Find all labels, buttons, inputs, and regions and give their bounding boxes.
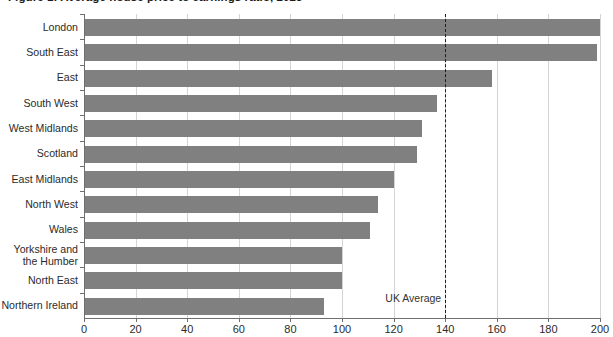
y-tick <box>80 90 84 91</box>
y-tick <box>80 115 84 116</box>
bar <box>84 95 437 112</box>
x-tick-label-20: 20 <box>129 323 141 335</box>
y-tick <box>80 166 84 167</box>
bar <box>84 19 600 36</box>
bar <box>84 44 597 61</box>
y-axis-label-northern-ireland: Northern Ireland <box>0 300 78 312</box>
y-axis-label-east-midlands: East Midlands <box>0 174 78 186</box>
y-axis-label-london: London <box>0 22 78 34</box>
gridline-200 <box>600 14 601 318</box>
chart-title: Figure 1: Average house price to earning… <box>8 0 303 3</box>
x-tick-label-80: 80 <box>284 323 296 335</box>
x-tick-label-60: 60 <box>233 323 245 335</box>
y-axis <box>84 14 85 319</box>
uk-average-line <box>445 14 446 318</box>
x-tick-label-0: 0 <box>81 323 87 335</box>
bar <box>84 171 394 188</box>
y-tick <box>80 39 84 40</box>
y-tick <box>80 293 84 294</box>
y-tick <box>80 141 84 142</box>
x-tick-label-180: 180 <box>539 323 557 335</box>
x-tick-label-160: 160 <box>488 323 506 335</box>
y-axis-label-west-midlands: West Midlands <box>0 123 78 135</box>
y-axis-label-scotland: Scotland <box>0 148 78 160</box>
bar <box>84 146 417 163</box>
y-axis-label-north-east: North East <box>0 275 78 287</box>
bar <box>84 247 342 264</box>
x-tick-200 <box>600 318 601 322</box>
bar <box>84 222 370 239</box>
y-axis-label-south-west: South West <box>0 98 78 110</box>
x-tick-0 <box>84 318 85 322</box>
x-tick-100 <box>342 318 343 322</box>
x-tick-40 <box>187 318 188 322</box>
x-tick-60 <box>239 318 240 322</box>
x-tick-180 <box>548 318 549 322</box>
x-tick-label-140: 140 <box>436 323 454 335</box>
y-axis-label-wales: Wales <box>0 224 78 236</box>
x-tick-80 <box>290 318 291 322</box>
bar <box>84 272 342 289</box>
y-tick <box>80 242 84 243</box>
chart-container: Figure 1: Average house price to earning… <box>0 0 613 337</box>
y-tick <box>80 191 84 192</box>
x-tick-160 <box>497 318 498 322</box>
x-tick-label-200: 200 <box>591 323 609 335</box>
uk-average-label: UK Average <box>379 292 441 304</box>
bar <box>84 70 492 87</box>
y-tick <box>80 267 84 268</box>
plot-area <box>84 14 600 318</box>
y-axis-label-south-east: South East <box>0 47 78 59</box>
x-tick-label-120: 120 <box>384 323 402 335</box>
x-tick-140 <box>445 318 446 322</box>
x-tick-label-40: 40 <box>181 323 193 335</box>
x-tick-label-100: 100 <box>333 323 351 335</box>
x-tick-120 <box>394 318 395 322</box>
y-tick <box>80 14 84 15</box>
bar <box>84 120 422 137</box>
y-axis-label-east: East <box>0 72 78 84</box>
x-tick-20 <box>136 318 137 322</box>
y-tick <box>80 217 84 218</box>
bar <box>84 196 378 213</box>
y-axis-label-north-west: North West <box>0 199 78 211</box>
bar <box>84 298 324 315</box>
y-tick <box>80 65 84 66</box>
y-axis-label-yorkshire-and-the-humber: Yorkshire and the Humber <box>0 244 78 267</box>
